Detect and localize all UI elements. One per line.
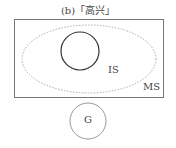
diagram-canvas [0, 0, 176, 148]
ms-box [15, 20, 164, 98]
ms-label: MS [143, 81, 160, 92]
is-ellipse [22, 25, 156, 93]
g-label: G [84, 114, 92, 125]
inner-circle [61, 32, 99, 70]
is-label: IS [108, 64, 119, 75]
